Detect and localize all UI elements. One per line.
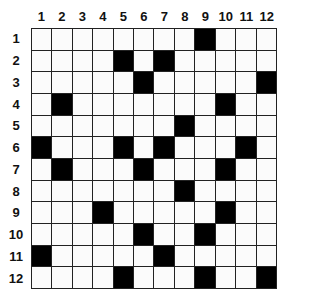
- white-cell[interactable]: [257, 137, 276, 158]
- white-cell[interactable]: [257, 246, 276, 267]
- white-cell[interactable]: [154, 94, 173, 115]
- white-cell[interactable]: [73, 267, 92, 288]
- white-cell[interactable]: [114, 181, 133, 202]
- white-cell[interactable]: [134, 51, 153, 72]
- white-cell[interactable]: [257, 159, 276, 180]
- white-cell[interactable]: [195, 246, 214, 267]
- white-cell[interactable]: [236, 159, 255, 180]
- white-cell[interactable]: [134, 246, 153, 267]
- white-cell[interactable]: [236, 94, 255, 115]
- white-cell[interactable]: [32, 94, 51, 115]
- white-cell[interactable]: [73, 116, 92, 137]
- white-cell[interactable]: [134, 181, 153, 202]
- white-cell[interactable]: [73, 224, 92, 245]
- white-cell[interactable]: [236, 29, 255, 50]
- white-cell[interactable]: [216, 137, 235, 158]
- white-cell[interactable]: [52, 72, 71, 93]
- white-cell[interactable]: [236, 267, 255, 288]
- white-cell[interactable]: [52, 51, 71, 72]
- white-cell[interactable]: [114, 116, 133, 137]
- white-cell[interactable]: [195, 137, 214, 158]
- white-cell[interactable]: [52, 181, 71, 202]
- white-cell[interactable]: [52, 116, 71, 137]
- white-cell[interactable]: [134, 137, 153, 158]
- white-cell[interactable]: [73, 51, 92, 72]
- white-cell[interactable]: [216, 116, 235, 137]
- white-cell[interactable]: [52, 246, 71, 267]
- white-cell[interactable]: [32, 202, 51, 223]
- white-cell[interactable]: [257, 51, 276, 72]
- white-cell[interactable]: [257, 181, 276, 202]
- white-cell[interactable]: [134, 94, 153, 115]
- white-cell[interactable]: [32, 29, 51, 50]
- white-cell[interactable]: [73, 159, 92, 180]
- white-cell[interactable]: [114, 224, 133, 245]
- white-cell[interactable]: [175, 51, 194, 72]
- white-cell[interactable]: [216, 246, 235, 267]
- white-cell[interactable]: [134, 29, 153, 50]
- white-cell[interactable]: [32, 159, 51, 180]
- white-cell[interactable]: [257, 94, 276, 115]
- white-cell[interactable]: [216, 181, 235, 202]
- white-cell[interactable]: [52, 137, 71, 158]
- white-cell[interactable]: [93, 181, 112, 202]
- white-cell[interactable]: [154, 224, 173, 245]
- white-cell[interactable]: [154, 72, 173, 93]
- white-cell[interactable]: [52, 224, 71, 245]
- white-cell[interactable]: [236, 116, 255, 137]
- white-cell[interactable]: [93, 224, 112, 245]
- white-cell[interactable]: [216, 224, 235, 245]
- white-cell[interactable]: [257, 116, 276, 137]
- white-cell[interactable]: [175, 267, 194, 288]
- white-cell[interactable]: [32, 181, 51, 202]
- white-cell[interactable]: [175, 72, 194, 93]
- white-cell[interactable]: [73, 94, 92, 115]
- white-cell[interactable]: [236, 224, 255, 245]
- white-cell[interactable]: [236, 181, 255, 202]
- white-cell[interactable]: [93, 246, 112, 267]
- white-cell[interactable]: [257, 224, 276, 245]
- white-cell[interactable]: [32, 116, 51, 137]
- white-cell[interactable]: [195, 202, 214, 223]
- white-cell[interactable]: [32, 224, 51, 245]
- white-cell[interactable]: [134, 267, 153, 288]
- white-cell[interactable]: [73, 137, 92, 158]
- white-cell[interactable]: [154, 29, 173, 50]
- white-cell[interactable]: [134, 202, 153, 223]
- white-cell[interactable]: [175, 202, 194, 223]
- white-cell[interactable]: [154, 202, 173, 223]
- white-cell[interactable]: [195, 94, 214, 115]
- white-cell[interactable]: [114, 159, 133, 180]
- white-cell[interactable]: [73, 29, 92, 50]
- white-cell[interactable]: [32, 267, 51, 288]
- white-cell[interactable]: [236, 202, 255, 223]
- white-cell[interactable]: [154, 181, 173, 202]
- white-cell[interactable]: [175, 137, 194, 158]
- white-cell[interactable]: [114, 72, 133, 93]
- white-cell[interactable]: [93, 51, 112, 72]
- white-cell[interactable]: [52, 202, 71, 223]
- white-cell[interactable]: [257, 202, 276, 223]
- white-cell[interactable]: [175, 29, 194, 50]
- white-cell[interactable]: [114, 202, 133, 223]
- white-cell[interactable]: [195, 51, 214, 72]
- white-cell[interactable]: [93, 94, 112, 115]
- white-cell[interactable]: [236, 51, 255, 72]
- white-cell[interactable]: [32, 72, 51, 93]
- white-cell[interactable]: [154, 116, 173, 137]
- white-cell[interactable]: [216, 51, 235, 72]
- white-cell[interactable]: [236, 72, 255, 93]
- white-cell[interactable]: [195, 72, 214, 93]
- white-cell[interactable]: [73, 181, 92, 202]
- white-cell[interactable]: [175, 246, 194, 267]
- white-cell[interactable]: [114, 246, 133, 267]
- white-cell[interactable]: [93, 267, 112, 288]
- white-cell[interactable]: [134, 116, 153, 137]
- white-cell[interactable]: [32, 51, 51, 72]
- white-cell[interactable]: [93, 72, 112, 93]
- white-cell[interactable]: [195, 116, 214, 137]
- white-cell[interactable]: [216, 267, 235, 288]
- white-cell[interactable]: [73, 246, 92, 267]
- white-cell[interactable]: [93, 29, 112, 50]
- white-cell[interactable]: [175, 94, 194, 115]
